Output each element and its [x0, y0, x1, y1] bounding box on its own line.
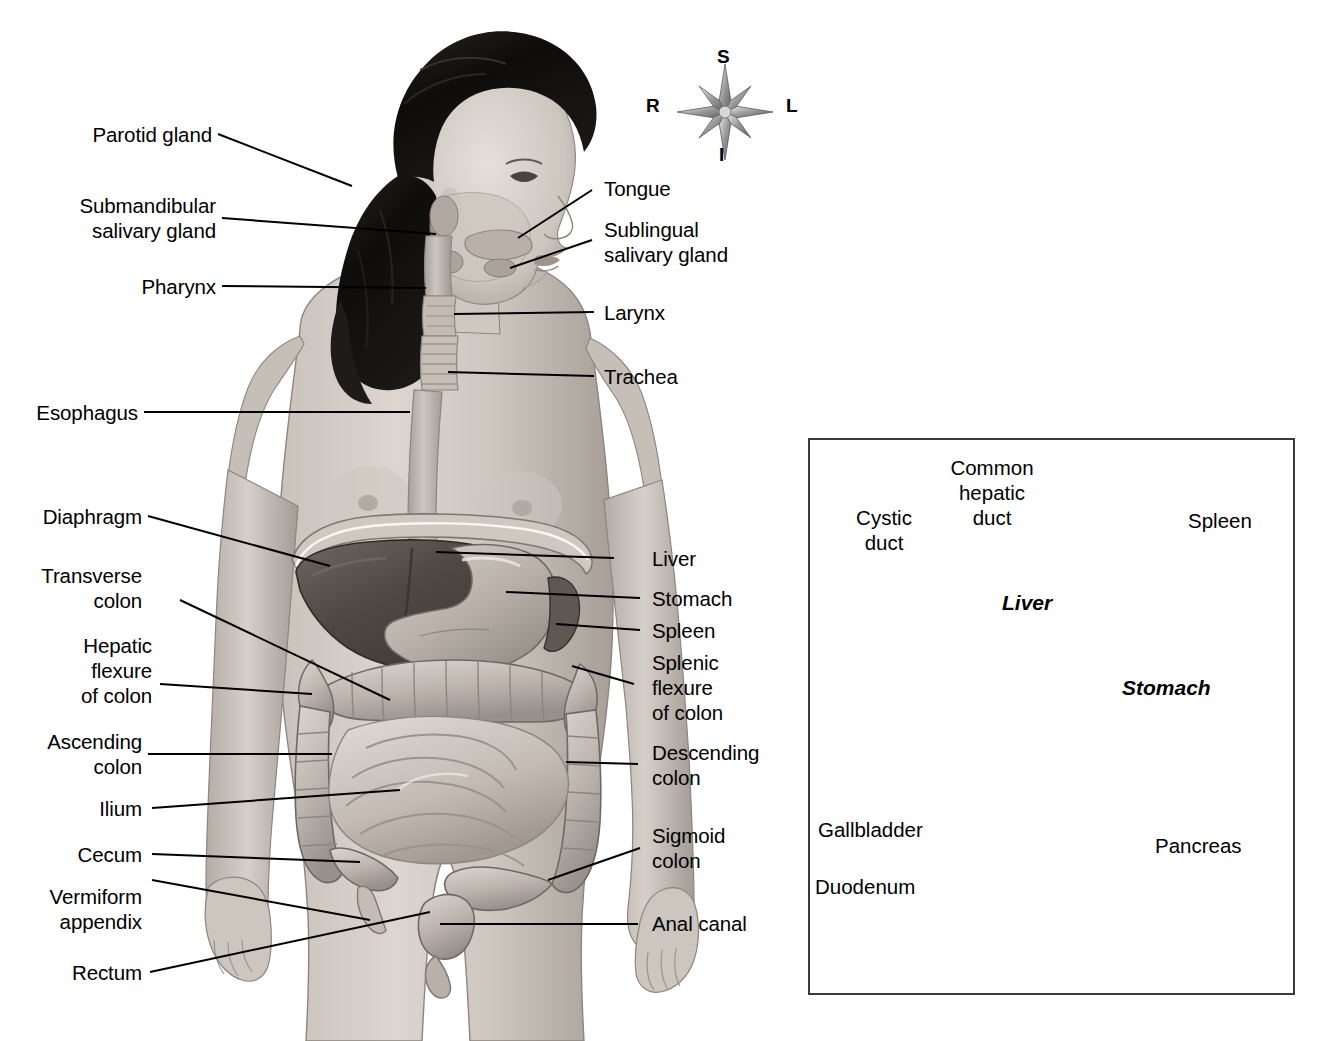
label-esophagus: Esophagus [0, 400, 138, 425]
label-vermiform-appendix: Vermiform appendix [0, 884, 142, 934]
pharynx-shape [425, 236, 453, 296]
left-hand [205, 877, 271, 981]
label-parotid-gland: Parotid gland [0, 122, 212, 147]
inset-organ-label-liver: Liver [1002, 591, 1052, 615]
label-sublingual-salivary-gland: Sublingual salivary gland [604, 217, 834, 267]
label-trachea: Trachea [604, 364, 804, 389]
compass-inferior-label: I [719, 144, 724, 166]
inset-label-common-hepatic-duct: Common hepatic duct [922, 455, 1062, 530]
diagram-canvas: S I R L Parotid gland Submandibular sali… [0, 0, 1317, 1041]
inset-label-pancreas: Pancreas [1155, 833, 1285, 858]
inset-label-gallbladder: Gallbladder [818, 817, 948, 842]
inset-label-duodenum: Duodenum [815, 874, 945, 899]
label-diaphragm: Diaphragm [0, 504, 142, 529]
parotid-gland-shape [430, 196, 458, 236]
label-ascending-colon: Ascending colon [0, 729, 142, 779]
label-tongue: Tongue [604, 176, 824, 201]
label-cecum: Cecum [0, 842, 142, 867]
label-submandibular-salivary-gland: Submandibular salivary gland [0, 193, 216, 243]
label-hepatic-flexure-of-colon: Hepatic flexure of colon [0, 633, 152, 708]
inset-label-spleen: Spleen [1188, 508, 1288, 533]
compass-right-label: R [646, 95, 660, 117]
orientation-compass: S I R L [660, 52, 790, 180]
label-pharynx: Pharynx [0, 274, 216, 299]
inset-organ-label-stomach: Stomach [1122, 676, 1211, 700]
compass-superior-label: S [717, 46, 730, 68]
label-larynx: Larynx [604, 300, 804, 325]
anal-canal-shape [425, 956, 450, 998]
label-rectum: Rectum [0, 960, 142, 985]
compass-left-label: L [786, 95, 798, 117]
label-transverse-colon: Transverse colon [0, 563, 142, 613]
label-ilium: Ilium [0, 796, 142, 821]
